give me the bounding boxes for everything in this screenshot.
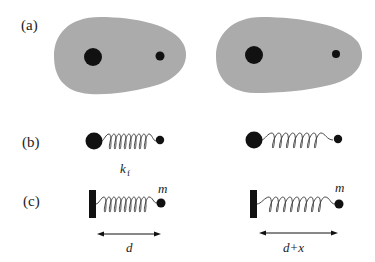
- spring-b-right: [262, 133, 333, 148]
- spring-pair-left: [86, 133, 165, 150]
- mass-left: [157, 199, 166, 208]
- arrowhead-right-end: [331, 231, 338, 236]
- large-nucleus-left: [84, 48, 102, 66]
- large-nucleus-b-right: [246, 132, 263, 149]
- arrowhead-left-start: [97, 232, 104, 237]
- wall-spring-mass-right: m d+x: [250, 180, 344, 255]
- spring-constant-subscript: f: [127, 168, 130, 178]
- spring-constant-symbol: k: [120, 161, 126, 176]
- mass-label-left: m: [158, 181, 167, 196]
- panel-label-a: (a): [21, 17, 38, 34]
- spring-model-diagram: (a) (b) (c) k f m d: [0, 0, 375, 262]
- spring-c-right: [257, 197, 335, 212]
- length-label-d: d: [126, 240, 133, 255]
- wall-left: [89, 190, 96, 218]
- panel-label-b: (b): [22, 134, 40, 151]
- small-nucleus-left: [156, 52, 165, 61]
- molecule-right: [216, 17, 362, 93]
- spring-constant-label: k f: [120, 161, 130, 178]
- arrowhead-left-end: [154, 232, 161, 237]
- arrowhead-right-start: [259, 231, 266, 236]
- mass-right: [335, 200, 344, 209]
- electron-cloud-left: [54, 17, 186, 94]
- electron-cloud-right: [216, 17, 362, 93]
- mass-label-right: m: [335, 180, 344, 195]
- length-label-d-plus-x: d+x: [283, 240, 304, 255]
- wall-right: [250, 190, 257, 218]
- wall-spring-mass-left: m d: [89, 181, 167, 255]
- molecule-left: [54, 17, 186, 94]
- large-nucleus-right: [245, 46, 263, 64]
- spring-c-left: [96, 197, 157, 212]
- panel-label-c: (c): [23, 193, 40, 210]
- small-nucleus-b-right: [334, 135, 342, 143]
- small-nucleus-right: [332, 50, 340, 58]
- large-nucleus-b-left: [86, 133, 103, 150]
- spring-pair-right: [246, 132, 343, 149]
- spring-b-left: [102, 134, 156, 149]
- small-nucleus-b-left: [156, 136, 164, 144]
